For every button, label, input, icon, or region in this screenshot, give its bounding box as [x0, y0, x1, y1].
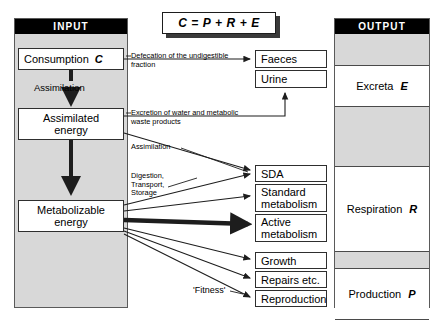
- node-urine-label: Urine: [261, 73, 287, 85]
- node-faeces: Faeces: [255, 50, 327, 68]
- node-metabolizable-energy-label: Metabolizable energy: [37, 204, 105, 228]
- arrow-metabolizable-to-active-metabolism: [124, 220, 248, 224]
- leader-line-fitness: [230, 291, 243, 294]
- node-consumption: Consumption C: [18, 48, 124, 70]
- node-assimilated-energy: Assimilated energy: [18, 108, 124, 140]
- output-band-production: Production P: [335, 268, 429, 320]
- caption-excretion: Excretion of water and metabolic waste p…: [131, 109, 249, 126]
- node-consumption-symbol: C: [95, 53, 103, 65]
- arrow-metabolizable-to-repairs: [124, 231, 250, 278]
- diagram-canvas: INPUT OUTPUT Excreta E Respiration R Pro…: [0, 0, 444, 332]
- node-consumption-label: Consumption: [24, 53, 89, 65]
- caption-assimilation-secondary: Assimilation: [131, 143, 170, 152]
- caption-fitness: 'Fitness': [193, 286, 225, 295]
- caption-assimilation-main: Assimilation: [34, 84, 85, 93]
- caption-defecation: Defecation of the undigestible fraction: [131, 52, 249, 69]
- output-column-header: OUTPUT: [335, 19, 429, 34]
- leader-line-digestion: [168, 178, 197, 187]
- arrow-assimilation-caption-leader: [181, 148, 248, 172]
- node-growth: Growth: [255, 252, 327, 269]
- output-column: OUTPUT Excreta E Respiration R Productio…: [334, 18, 430, 308]
- output-band-production-label: Production: [349, 288, 402, 300]
- output-band-production-symbol: P: [408, 288, 415, 300]
- node-urine: Urine: [255, 70, 327, 88]
- node-growth-label: Growth: [261, 255, 296, 267]
- node-faeces-label: Faeces: [261, 53, 297, 65]
- equation-box: C = P + R + E: [162, 12, 276, 34]
- node-standard-metabolism: Standard metabolism: [255, 184, 327, 212]
- node-standard-metabolism-label: Standard metabolism: [261, 186, 317, 210]
- node-active-metabolism-label: Active metabolism: [261, 216, 317, 240]
- arrow-metabolizable-to-growth: [124, 228, 250, 259]
- node-reproduction: Reproduction: [255, 290, 327, 307]
- node-active-metabolism: Active metabolism: [255, 214, 327, 242]
- node-repairs: Repairs etc.: [255, 271, 327, 288]
- node-reproduction-label: Reproduction: [261, 293, 326, 305]
- output-band-excreta-symbol: E: [400, 80, 407, 92]
- input-column-header: INPUT: [15, 19, 127, 34]
- node-sda: SDA: [255, 165, 327, 182]
- output-band-excreta: Excreta E: [335, 65, 429, 107]
- node-assimilated-energy-label: Assimilated energy: [43, 112, 99, 136]
- node-sda-label: SDA: [261, 168, 284, 180]
- node-repairs-label: Repairs etc.: [261, 274, 320, 286]
- output-band-respiration-label: Respiration: [347, 203, 403, 215]
- caption-digestion-transport-storage: Digestion, Transport, Storage: [131, 172, 164, 198]
- node-metabolizable-energy: Metabolizable energy: [18, 200, 124, 232]
- output-band-respiration: Respiration R: [335, 166, 429, 252]
- output-band-respiration-symbol: R: [409, 203, 417, 215]
- arrow-metabolizable-to-reproduction: [124, 234, 250, 297]
- output-band-excreta-label: Excreta: [356, 80, 393, 92]
- arrow-metabolizable-to-standard-metabolism: [124, 196, 250, 211]
